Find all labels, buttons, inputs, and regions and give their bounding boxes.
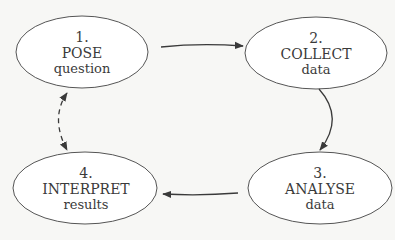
edge-pose-to-collect — [161, 45, 243, 47]
edge-collect-to-analyse — [319, 89, 332, 150]
node-interpret-subtitle: results — [42, 197, 129, 213]
node-collect-subtitle: data — [280, 62, 351, 78]
edge-analyse-to-interpret — [163, 193, 238, 195]
node-pose-title: POSE — [54, 45, 111, 61]
node-analyse: 3. ANALYSE data — [285, 165, 355, 213]
node-analyse-title: ANALYSE — [285, 181, 355, 197]
edge-interpret-pose-dashed — [59, 93, 68, 150]
node-analyse-number: 3. — [285, 165, 355, 181]
node-analyse-subtitle: data — [285, 197, 355, 213]
node-interpret-number: 4. — [42, 165, 129, 181]
node-collect-number: 2. — [280, 30, 351, 46]
node-interpret-title: INTERPRET — [42, 181, 129, 197]
node-collect-title: COLLECT — [280, 46, 351, 62]
node-collect: 2. COLLECT data — [280, 30, 351, 78]
node-pose-number: 1. — [54, 29, 111, 45]
node-pose-subtitle: question — [54, 61, 111, 77]
node-pose: 1. POSE question — [54, 29, 111, 77]
node-interpret: 4. INTERPRET results — [42, 165, 129, 213]
